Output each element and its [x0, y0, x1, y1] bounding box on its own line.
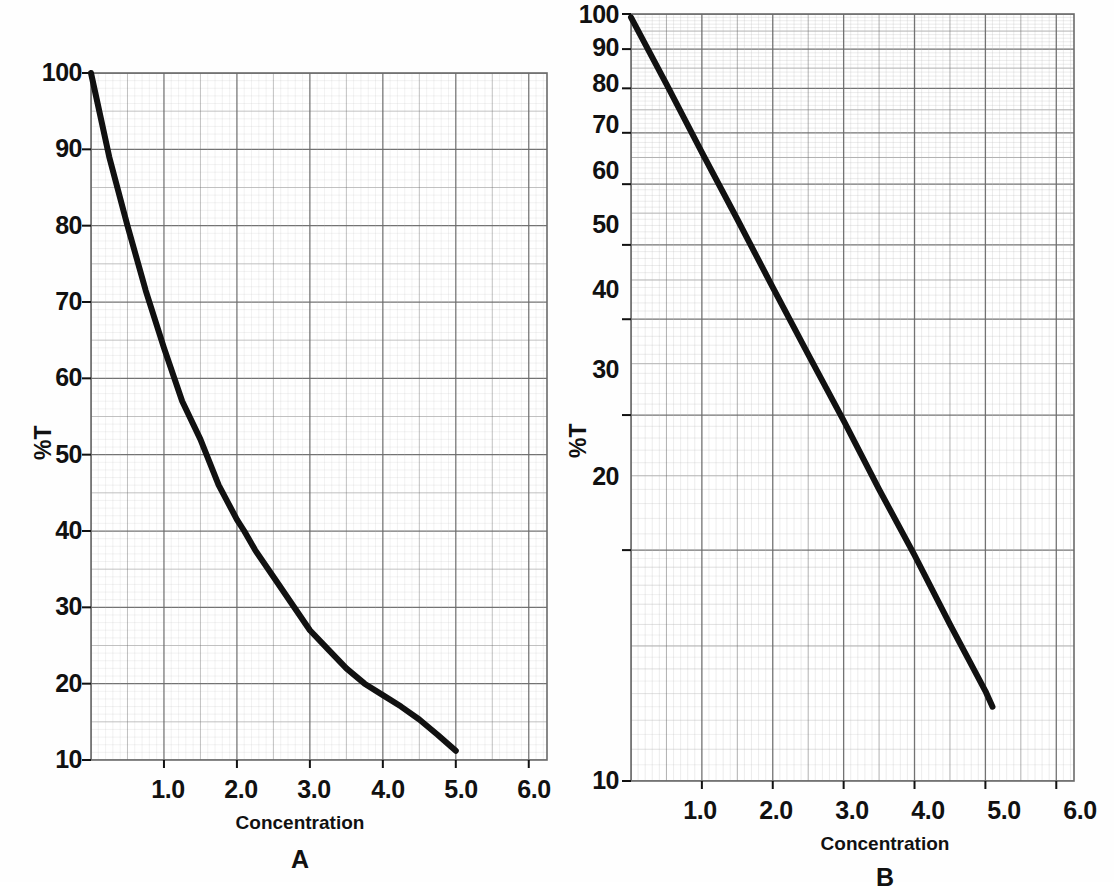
panel-a-ytick-1: 90 [10, 134, 82, 163]
panel-b: 100 90 80 70 60 50 40 30 20 10 1.0 2.0 3… [557, 0, 1114, 882]
panel-b-ytick-7: 30 [547, 355, 619, 384]
panel-b-xtick-0: 1.0 [663, 796, 737, 825]
panel-a-ytick-7: 30 [10, 592, 82, 621]
panel-a-ytick-9: 10 [10, 745, 82, 774]
panel-b-ylabel: %T [565, 424, 592, 459]
panel-a-ytick-2: 80 [10, 211, 82, 240]
panel-a-plot [0, 0, 557, 882]
panel-b-ytick-8: 20 [547, 462, 619, 491]
panel-b-xtick-5: 6.0 [1043, 796, 1114, 825]
panel-a-ytick-3: 70 [10, 287, 82, 316]
panel-a-xtick-2: 3.0 [277, 775, 351, 804]
panel-a-ylabel: %T [30, 426, 57, 461]
panel-b-xtick-3: 4.0 [891, 796, 965, 825]
panel-b-xlabel: Concentration [775, 833, 995, 855]
panel-b-letter: B [835, 863, 935, 890]
panel-b-xtick-4: 5.0 [967, 796, 1041, 825]
panel-b-ytick-9: 10 [547, 766, 619, 795]
panel-a-letter: A [250, 845, 350, 874]
panel-b-ytick-0: 100 [547, 0, 619, 29]
panel-b-ytick-5: 50 [547, 210, 619, 239]
panel-a-ytick-0: 100 [10, 58, 82, 87]
panel-a-ytick-4: 60 [10, 363, 82, 392]
panel-b-ytick-2: 80 [547, 69, 619, 98]
panel-a-xtick-0: 1.0 [131, 775, 205, 804]
panel-b-xtick-1: 2.0 [739, 796, 813, 825]
panel-b-plot [557, 0, 1114, 882]
panel-a-xtick-4: 5.0 [424, 775, 498, 804]
panel-b-ytick-1: 90 [547, 33, 619, 62]
panel-a-xlabel: Concentration [190, 812, 410, 834]
panel-a-xtick-1: 2.0 [204, 775, 278, 804]
panel-a-ytick-6: 40 [10, 516, 82, 545]
panel-b-ytick-4: 60 [547, 156, 619, 185]
panel-a-ytick-8: 20 [10, 669, 82, 698]
panel-b-ytick-3: 70 [547, 110, 619, 139]
panel-a-xtick-3: 4.0 [351, 775, 425, 804]
panel-a: 100 90 80 70 60 50 40 30 20 10 1.0 2.0 3… [0, 0, 557, 882]
panel-b-xtick-2: 3.0 [815, 796, 889, 825]
panel-b-ytick-6: 40 [547, 275, 619, 304]
